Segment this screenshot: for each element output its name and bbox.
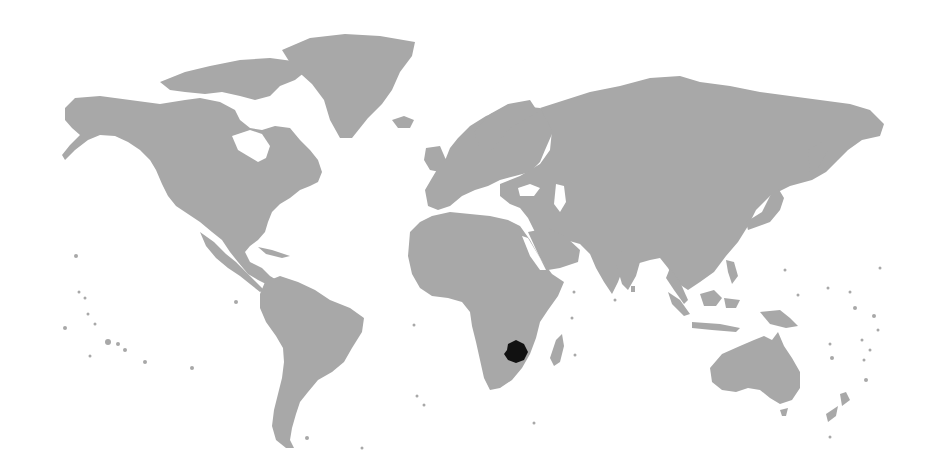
iceland xyxy=(392,116,414,128)
australia xyxy=(710,332,800,404)
new-zealand xyxy=(826,392,850,422)
madagascar xyxy=(550,334,564,366)
north-america xyxy=(62,96,322,292)
world-map xyxy=(0,0,941,476)
new-guinea xyxy=(760,310,798,328)
south-america xyxy=(260,276,364,448)
arctic-islands xyxy=(160,58,305,100)
